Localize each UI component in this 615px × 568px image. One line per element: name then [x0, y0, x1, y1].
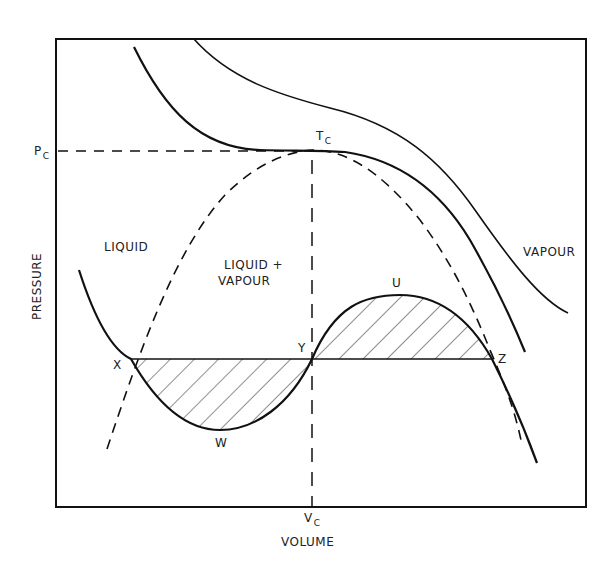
y-tick-pc: PC [34, 145, 50, 157]
region-label-two-phase-line1: LIQUID + [218, 258, 283, 274]
region-label-liquid: LIQUID [104, 241, 148, 253]
point-label-y: Y [298, 342, 306, 354]
critical-isotherm [134, 47, 525, 352]
hatched-area-upper [312, 295, 492, 359]
point-label-w: W [215, 437, 227, 449]
point-label-u: U [392, 277, 401, 289]
x-axis-label: VOLUME [281, 536, 334, 548]
hatched-area-lower [131, 359, 312, 430]
y-axis-label: PRESSURE [31, 253, 43, 320]
x-tick-vc: VC [304, 512, 321, 524]
plot-frame [56, 39, 586, 507]
region-label-vapour: VAPOUR [523, 246, 575, 258]
region-label-two-phase: LIQUID + VAPOUR [218, 258, 283, 289]
region-label-two-phase-line2: VAPOUR [218, 274, 283, 290]
pv-diagram [0, 0, 615, 568]
point-label-x: X [113, 359, 122, 371]
critical-temperature-label: TC [316, 130, 332, 142]
point-label-z: Z [498, 353, 507, 365]
